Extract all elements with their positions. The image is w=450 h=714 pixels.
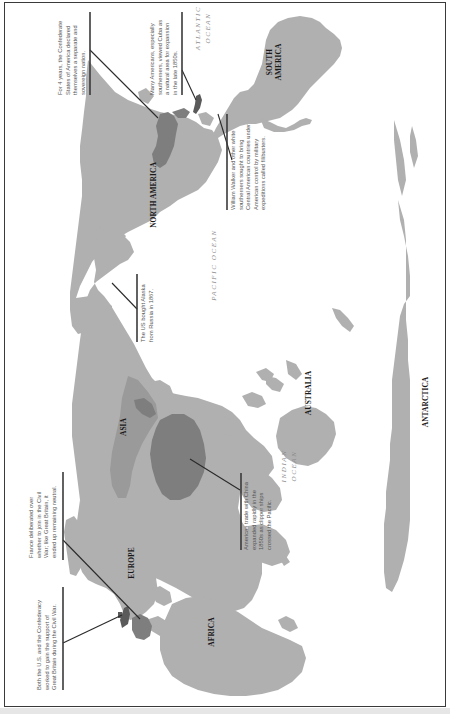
label-atlantic-2: OCEAN: [204, 13, 212, 44]
svg-text:expeditions called filibusters: expeditions called filibusters.: [260, 136, 266, 210]
svg-text:southerners, viewed Cuba as: southerners, viewed Cuba as: [157, 20, 163, 95]
svg-text:For 4 years, the Confederate: For 4 years, the Confederate: [57, 21, 63, 95]
leader-cuba: [182, 70, 196, 100]
svg-text:William Walker and other white: William Walker and other white: [230, 131, 236, 210]
svg-text:themselves a separate and: themselves a separate and: [72, 25, 78, 95]
label-antarctica: ANTARCTICA: [421, 376, 430, 427]
annotation-britain: Both the U.S. and the Confederacy worked…: [36, 600, 57, 691]
annotation-confederacy: For 4 years, the Confederate States of A…: [57, 21, 86, 95]
svg-text:Many Americans, especially: Many Americans, especially: [149, 23, 155, 95]
label-africa: AFRICA: [207, 617, 216, 647]
new-zealand: [332, 308, 354, 332]
label-australia: AUSTRALIA: [304, 370, 313, 415]
antarctica-landmass: [384, 200, 410, 592]
svg-text:a natural area for expansion: a natural area for expansion: [164, 23, 170, 95]
world-map: NORTH AMERICA SOUTH AMERICA ASIA EUROPE …: [0, 0, 450, 714]
annotation-france: France deliberated over whether to join …: [28, 485, 57, 559]
label-indian-1: INDIAN: [280, 450, 288, 484]
svg-text:from Russia in 1867.: from Russia in 1867.: [148, 288, 154, 342]
africa-landmass: [160, 596, 306, 696]
label-atlantic-1: ATLANTIC: [194, 6, 202, 51]
svg-text:crossed the Pacific.: crossed the Pacific.: [266, 499, 272, 550]
label-europe: EUROPE: [127, 547, 136, 578]
svg-text:in the late 1850s.: in the late 1850s.: [172, 50, 178, 95]
svg-text:1850s as clipper ships: 1850s as clipper ships: [258, 493, 264, 550]
svg-text:sovereign nation.: sovereign nation.: [80, 50, 86, 95]
svg-text:whether to join in the Civil: whether to join in the Civil: [36, 492, 42, 559]
leader-britain: [63, 615, 122, 643]
svg-text:War; like Great Britain, it: War; like Great Britain, it: [43, 495, 49, 558]
svg-text:ended up remaining neutral.: ended up remaining neutral.: [51, 485, 57, 558]
annotation-cuba: Many Americans, especially southerners, …: [149, 20, 178, 95]
svg-text:France deliberated over: France deliberated over: [28, 497, 34, 558]
label-south-america-1: SOUTH: [265, 49, 274, 76]
svg-text:American trade with China: American trade with China: [243, 481, 249, 550]
svg-text:Great Britain during the Civil: Great Britain during the Civil War.: [51, 604, 57, 690]
svg-text:worked to gain the support of: worked to gain the support of: [44, 615, 50, 691]
svg-text:States of America declared: States of America declared: [65, 26, 71, 95]
annotation-filibusters: William Walker and other white southerne…: [230, 124, 266, 210]
svg-text:The US bought Alaska: The US bought Alaska: [140, 284, 146, 342]
france-region: [132, 614, 152, 640]
label-north-america: NORTH AMERICA: [149, 162, 158, 228]
leader-alaska: [112, 283, 137, 309]
label-south-america-2: AMERICA: [274, 43, 283, 80]
svg-text:southerners sought to bring: southerners sought to bring: [238, 139, 244, 210]
svg-text:expanded rapidly in the: expanded rapidly in the: [251, 490, 257, 550]
annotation-alaska: The US bought Alaska from Russia in 1867…: [140, 284, 154, 342]
label-indian-2: OCEAN: [290, 451, 298, 482]
svg-text:Central American countries und: Central American countries under: [245, 124, 251, 210]
madagascar: [278, 616, 298, 632]
label-pacific: PACIFIC OCEAN: [210, 229, 218, 301]
svg-text:American control by military: American control by military: [253, 139, 259, 210]
label-asia: ASIA: [119, 417, 128, 436]
svg-text:Both the U.S. and the Confeder: Both the U.S. and the Confederacy: [36, 600, 42, 690]
